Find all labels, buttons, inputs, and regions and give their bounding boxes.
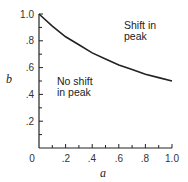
x-tick-label: 0 <box>29 153 35 164</box>
x-tick-label: .2 <box>62 153 71 164</box>
x-tick-label: .4 <box>88 153 97 164</box>
region-label-upper: peak <box>124 30 148 42</box>
y-tick-label: .4 <box>26 89 35 100</box>
y-tick-label: 1.0 <box>20 9 34 20</box>
y-tick-label: .8 <box>26 35 35 46</box>
x-tick-label: .6 <box>115 153 124 164</box>
y-tick-label: .6 <box>26 62 35 73</box>
x-axis-label: a <box>100 166 106 180</box>
x-tick-label: 1.0 <box>165 153 179 164</box>
chart-canvas: 1.0 .8 .6 .4 .2 0 .2 .4 .6 .8 1.0 a b Sh… <box>0 0 188 182</box>
y-axis-label: b <box>6 72 12 86</box>
region-label-lower: in peak <box>57 86 92 98</box>
x-tick-label: .8 <box>141 153 150 164</box>
y-tick-label: .2 <box>26 116 35 127</box>
